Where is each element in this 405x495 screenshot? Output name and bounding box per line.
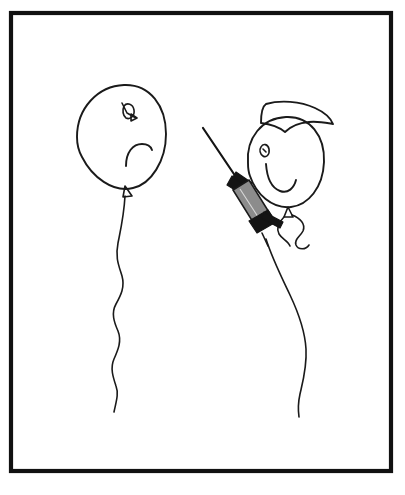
- drawing-canvas: [0, 0, 405, 495]
- cartoon-scene: Sad balloon and nurse balloon with syrin…: [0, 0, 405, 495]
- paper-background: [0, 0, 405, 495]
